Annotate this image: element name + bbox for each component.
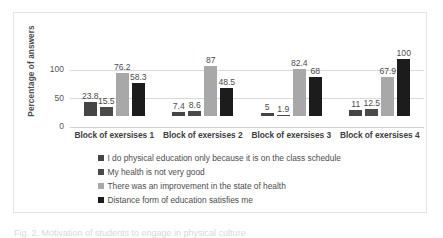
bar[interactable] (100, 107, 113, 116)
legend-swatch-icon (98, 155, 104, 161)
bar-value-label: 76.2 (114, 63, 131, 72)
figure-caption-clipped: Fig. 2. Motivation of students to engage… (14, 229, 314, 238)
bar[interactable] (220, 88, 233, 116)
figure-caption-text: Fig. 2. Motivation of students to engage… (14, 229, 314, 238)
bar-slot: 100 (397, 46, 410, 116)
plot-wrapper: Percentage of answers 100 50 0 23.815.57… (14, 13, 428, 214)
bar-value-label: 23.8 (82, 92, 99, 101)
bar-slot: 12.5 (365, 46, 378, 116)
bar-value-label: 68 (310, 67, 320, 76)
bar[interactable] (116, 73, 129, 116)
bar-group: 51.982.468 (247, 46, 336, 116)
bar-slot: 76.2 (116, 46, 129, 116)
bar[interactable] (349, 110, 362, 116)
bar-value-label: 12.5 (363, 99, 380, 108)
bar-slot: 58.3 (132, 46, 145, 116)
chart-frame: Percentage of answers 100 50 0 23.815.57… (13, 12, 427, 213)
y-tick-100: 100 (38, 65, 64, 74)
bar-value-label: 48.5 (218, 78, 235, 87)
bar[interactable] (172, 112, 185, 116)
bar-value-label: 1.9 (277, 105, 289, 114)
bar[interactable] (293, 69, 306, 116)
bar-slot: 15.5 (100, 46, 113, 116)
bar-slot: 5 (261, 46, 274, 116)
bar-value-label: 7.4 (173, 102, 185, 111)
bar[interactable] (261, 113, 274, 116)
y-tick-50: 50 (38, 94, 64, 103)
legend-label: My health is not very good (108, 167, 205, 177)
bar-group: 7.48.68748.5 (159, 46, 248, 116)
legend-item[interactable]: Distance form of education satisfies me (98, 193, 418, 207)
chart-legend: I do physical education only because it … (98, 151, 418, 207)
legend-swatch-icon (98, 169, 104, 175)
legend-item[interactable]: I do physical education only because it … (98, 151, 418, 165)
legend-label: I do physical education only because it … (108, 153, 341, 163)
bar[interactable] (132, 83, 145, 116)
bar-value-label: 15.5 (98, 97, 115, 106)
bar-slot: 68 (309, 46, 322, 116)
legend-swatch-icon (98, 183, 104, 189)
bar-value-label: 100 (397, 49, 411, 58)
legend-swatch-icon (98, 197, 104, 203)
bar[interactable] (84, 102, 97, 116)
bar-value-label: 87 (206, 56, 216, 65)
bar-slot: 82.4 (293, 46, 306, 116)
bar-group: 1112.567.9100 (336, 46, 425, 116)
category-label: Block of exersises 2 (159, 130, 248, 140)
bar[interactable] (381, 77, 394, 116)
bar[interactable] (277, 115, 290, 116)
figure-container: Percentage of answers 100 50 0 23.815.57… (0, 0, 443, 238)
bar-slot: 87 (204, 46, 217, 116)
bar-value-label: 5 (265, 103, 270, 112)
bar-groups: 23.815.576.258.37.48.68748.551.982.46811… (70, 46, 424, 116)
bar[interactable] (204, 66, 217, 116)
bar-slot: 11 (349, 46, 362, 116)
bar-value-label: 58.3 (130, 73, 147, 82)
bar-slot: 67.9 (381, 46, 394, 116)
bar[interactable] (309, 77, 322, 116)
legend-item[interactable]: There was an improvement in the state of… (98, 179, 418, 193)
bar[interactable] (188, 111, 201, 116)
bar-slot: 23.8 (84, 46, 97, 116)
bar-group: 23.815.576.258.3 (70, 46, 159, 116)
bar-slot: 8.6 (188, 46, 201, 116)
y-tick-0: 0 (38, 122, 64, 131)
bar-slot: 1.9 (277, 46, 290, 116)
legend-label: Distance form of education satisfies me (108, 195, 253, 205)
category-label: Block of exersises 1 (70, 130, 159, 140)
category-axis: Block of exersises 1Block of exersises 2… (70, 130, 424, 140)
bar-value-label: 11 (351, 100, 360, 109)
bar-value-label: 8.6 (189, 101, 201, 110)
legend-label: There was an improvement in the state of… (108, 181, 286, 191)
bar-slot: 48.5 (220, 46, 233, 116)
category-label: Block of exersises 3 (247, 130, 336, 140)
bar-value-label: 82.4 (291, 59, 308, 68)
axis-baseline (70, 127, 424, 128)
bar-value-label: 67.9 (379, 67, 396, 76)
legend-item[interactable]: My health is not very good (98, 165, 418, 179)
bar[interactable] (397, 59, 410, 116)
plot-area: 23.815.576.258.37.48.68748.551.982.46811… (70, 46, 424, 116)
category-label: Block of exersises 4 (336, 130, 425, 140)
bar-slot: 7.4 (172, 46, 185, 116)
bar[interactable] (365, 109, 378, 116)
